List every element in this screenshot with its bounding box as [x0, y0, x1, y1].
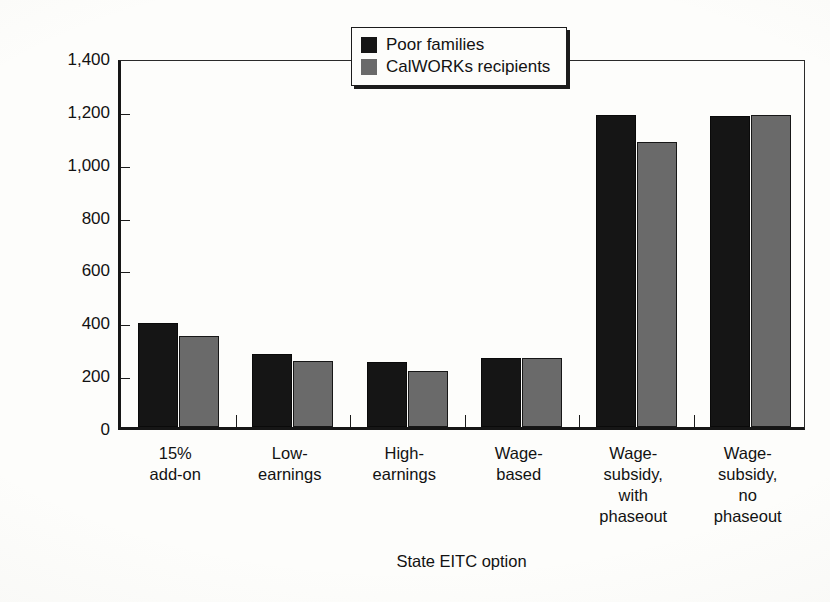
bar-group	[252, 61, 333, 427]
bar	[252, 354, 292, 427]
bar	[751, 115, 791, 427]
x-axis-tick-label: Low-earnings	[233, 443, 348, 485]
x-axis-title: State EITC option	[118, 552, 805, 571]
y-axis-tick-label: 800	[44, 209, 110, 229]
y-axis-tick-label: 200	[44, 367, 110, 387]
bar-group	[596, 61, 677, 427]
black-square-swatch	[361, 37, 377, 53]
legend-label: Poor families	[386, 35, 484, 55]
y-axis-tick-label: 1,400	[44, 50, 110, 70]
legend-entry: Poor families	[361, 34, 550, 56]
y-axis-tick-label: 600	[44, 261, 110, 281]
y-axis-tick-labels: 02004006008001,0001,2001,400	[44, 50, 110, 432]
bars-layer	[121, 61, 804, 427]
bar	[408, 371, 448, 427]
plot-area	[118, 60, 805, 430]
bar-chart-figure: Average annual benefit ($) 0200400600800…	[0, 0, 830, 602]
gray-square-swatch	[361, 59, 377, 75]
bar	[522, 358, 562, 427]
x-axis-tick-label: 15%add-on	[118, 443, 233, 485]
bar	[637, 142, 677, 427]
bar	[367, 362, 407, 427]
legend: Poor familiesCalWORKs recipients	[351, 27, 567, 86]
legend-label: CalWORKs recipients	[386, 57, 550, 77]
y-axis-tick-label: 1,200	[44, 103, 110, 123]
bar	[710, 116, 750, 427]
bar-group	[481, 61, 562, 427]
x-axis-tick-label: Wage-subsidy,nophaseout	[691, 443, 806, 527]
y-axis-tick-label: 0	[44, 420, 110, 440]
bar	[293, 361, 333, 427]
bar	[596, 115, 636, 427]
x-axis-tick-label: Wage-subsidy,withphaseout	[576, 443, 691, 527]
y-axis-tick-label: 1,000	[44, 156, 110, 176]
bar-group	[710, 61, 791, 427]
x-axis-tick-label: High-earnings	[347, 443, 462, 485]
bar-group	[138, 61, 219, 427]
legend-entry: CalWORKs recipients	[361, 56, 550, 78]
x-axis-tick-label: Wage-based	[462, 443, 577, 485]
bar-group	[367, 61, 448, 427]
bar	[138, 323, 178, 427]
x-axis-tick-labels: 15%add-onLow-earningsHigh-earningsWage-b…	[118, 443, 805, 553]
bar	[481, 358, 521, 427]
bar	[179, 336, 219, 427]
y-axis-tick-label: 400	[44, 314, 110, 334]
